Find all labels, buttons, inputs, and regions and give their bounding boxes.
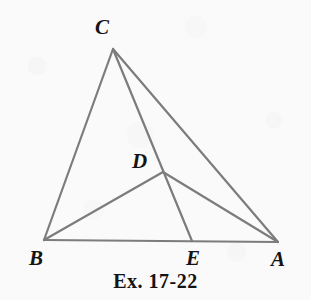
segment-BD	[44, 172, 163, 240]
vertex-label-D: D	[132, 151, 147, 172]
segment-CE	[113, 49, 192, 241]
vertex-label-B: B	[29, 248, 43, 269]
segment-BA	[44, 240, 278, 242]
segment-DA	[163, 172, 278, 242]
geometry-figure: C D B E A Ex. 17-22	[0, 0, 311, 300]
triangle-diagram	[0, 0, 311, 300]
segments-group	[44, 49, 278, 242]
vertex-label-A: A	[271, 249, 285, 270]
segment-CB	[44, 49, 113, 240]
figure-caption: Ex. 17-22	[0, 270, 311, 293]
vertex-label-C: C	[95, 17, 109, 38]
vertex-label-E: E	[186, 248, 200, 269]
segment-CA	[113, 49, 278, 242]
